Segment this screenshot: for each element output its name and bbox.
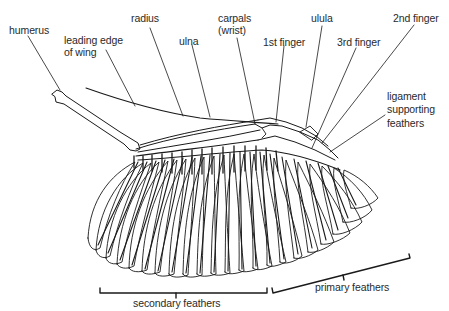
primary-feather-group (274, 158, 378, 263)
label-carpals-line2: (wrist) (218, 24, 246, 36)
label-carpals-line1: carpals (218, 12, 251, 24)
label-second-finger: 2nd finger (393, 12, 439, 24)
label-third-finger: 3rd finger (337, 36, 380, 48)
secondary-feather-group (88, 154, 286, 277)
label-ulula: ulula (311, 12, 333, 24)
label-primary-feathers: primary feathers (315, 281, 389, 293)
label-secondary-feathers: secondary feathers (133, 297, 221, 309)
label-humerus: humerus (9, 24, 49, 36)
wing-diagram: humerus leading edge of wing radius ulna… (0, 0, 449, 311)
label-ligament-line2: supporting (387, 103, 435, 115)
label-first-finger: 1st finger (263, 36, 305, 48)
label-leading-edge-line2: of wing (64, 46, 97, 58)
label-ligament-line3: feathers (387, 117, 424, 129)
label-leading-edge-line1: leading edge (64, 34, 123, 46)
label-ligament-line1: ligament (387, 90, 426, 102)
label-radius: radius (131, 12, 159, 24)
label-ulna: ulna (179, 35, 198, 47)
